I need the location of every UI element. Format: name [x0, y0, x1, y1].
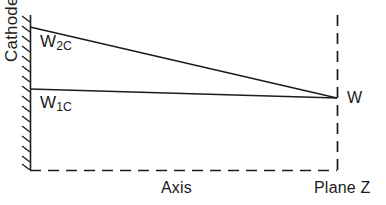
w2c-label: W2C	[40, 33, 72, 52]
axis-label: Axis	[161, 180, 192, 196]
w1c-boundary-line	[30, 89, 337, 98]
diagram-canvas: Cathode W2C W1C W Axis Plane Z	[0, 0, 386, 205]
w1c-label: W1C	[40, 94, 72, 113]
cathode-axis-label: Cathode	[3, 0, 20, 62]
cathode-hatching	[22, 16, 30, 170]
w2c-label-subscript: 2C	[56, 39, 72, 53]
w-point-label: W	[347, 90, 362, 106]
w2c-boundary-line	[30, 27, 337, 98]
w1c-label-subscript: 1C	[56, 100, 72, 114]
w2c-label-base: W	[40, 32, 56, 51]
w1c-label-base: W	[40, 93, 56, 112]
plane-z-label: Plane Z	[314, 180, 371, 196]
cathode-wall-group	[22, 15, 31, 170]
